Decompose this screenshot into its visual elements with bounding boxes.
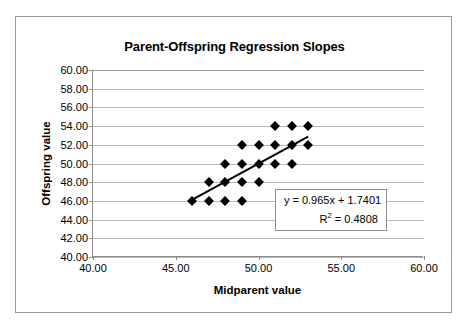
- y-tick-label: 58.00: [60, 83, 88, 95]
- x-tick-mark: [424, 256, 425, 260]
- equation-text: y = 0.965x + 1.7401: [284, 193, 378, 208]
- x-tick-label: 50.00: [245, 262, 273, 274]
- r-squared-value: = 0.4808: [332, 212, 378, 224]
- y-tick-label: 50.00: [60, 158, 88, 170]
- x-tick-label: 60.00: [410, 262, 438, 274]
- x-axis-title: Midparent value: [92, 284, 423, 296]
- r-squared-symbol: R: [320, 212, 328, 224]
- x-tick-label: 40.00: [79, 262, 107, 274]
- x-tick-label: 45.00: [162, 262, 190, 274]
- y-tick-label: 44.00: [60, 214, 88, 226]
- chart-frame: Parent-Offspring Regression Slopes Offsp…: [15, 16, 452, 313]
- y-tick-label: 60.00: [60, 64, 88, 76]
- chart-title: Parent-Offspring Regression Slopes: [16, 39, 453, 54]
- y-axis-title: Offspring value: [40, 70, 54, 257]
- y-tick-label: 46.00: [60, 195, 88, 207]
- y-tick-label: 42.00: [60, 232, 88, 244]
- y-tick-label: 54.00: [60, 120, 88, 132]
- regression-equation-box: y = 0.965x + 1.7401 R2 = 0.4808: [275, 189, 387, 232]
- y-tick-label: 48.00: [60, 176, 88, 188]
- y-tick-label: 56.00: [60, 101, 88, 113]
- x-tick-label: 55.00: [327, 262, 355, 274]
- r-squared-text: R2 = 0.4808: [284, 208, 378, 227]
- y-tick-label: 52.00: [60, 139, 88, 151]
